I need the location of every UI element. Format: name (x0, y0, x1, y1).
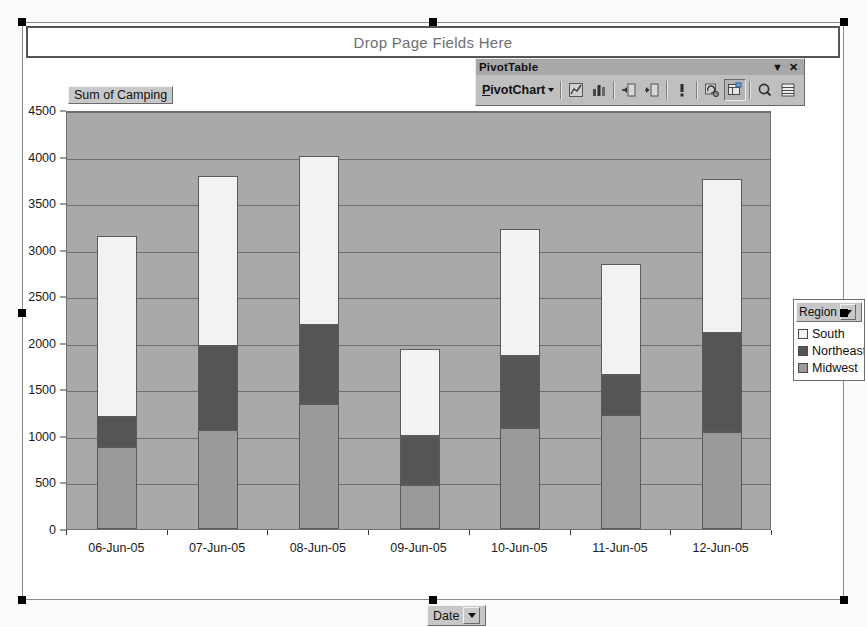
series-field-label: Sum of Camping (74, 88, 167, 102)
legend-swatch (798, 346, 808, 356)
y-axis-tick-label: 2500 (28, 290, 56, 304)
bar-segment[interactable] (702, 333, 742, 433)
field-list-icon[interactable] (754, 79, 776, 101)
category-axis: 06-Jun-0507-Jun-0508-Jun-0509-Jun-0510-J… (66, 535, 771, 559)
pivotchart-menu-button[interactable]: PivotChart (479, 81, 557, 99)
legend-field-button[interactable]: Region (796, 302, 862, 322)
legend-entry-label: Midwest (812, 361, 858, 375)
pivotchart-menu-label-rest: ivotChart (490, 83, 545, 97)
bar-segment[interactable] (601, 264, 641, 376)
toolbar-buttons-row: PivotChart (476, 75, 804, 104)
series-field-button[interactable]: Sum of Camping (68, 86, 173, 104)
page-fields-dropzone-label: Drop Page Fields Here (354, 34, 513, 51)
legend-entry-label: Northeast (812, 344, 864, 358)
chevron-down-icon[interactable] (548, 88, 554, 92)
bar-segment[interactable] (299, 404, 339, 529)
y-axis-tick-label: 3000 (28, 244, 56, 258)
toolbar-titlebar[interactable]: PivotTable ▼ ✕ (476, 59, 804, 75)
chevron-down-icon[interactable]: ▼ (769, 62, 786, 73)
selection-handle-top-left[interactable] (18, 18, 26, 26)
bar-segment[interactable] (198, 430, 238, 529)
chevron-down-icon[interactable] (463, 607, 480, 624)
category-field-button[interactable]: Date (427, 605, 486, 626)
bar-stack[interactable] (97, 111, 137, 529)
x-axis-tick-mark (167, 530, 168, 535)
selection-handle-middle-right[interactable] (840, 309, 848, 317)
chart-wizard-icon[interactable] (565, 79, 587, 101)
y-axis-tick-label: 0 (49, 523, 56, 537)
x-axis-tick-label: 11-Jun-05 (592, 541, 647, 555)
y-axis-tick-label: 3500 (28, 197, 56, 211)
display-fields-icon[interactable] (777, 79, 799, 101)
bar-segment[interactable] (299, 325, 339, 404)
bar-segment[interactable] (702, 179, 742, 333)
x-axis-tick-mark (670, 530, 671, 535)
toolbar-separator-5 (749, 81, 751, 99)
x-axis-tick-label: 12-Jun-05 (692, 541, 748, 555)
bar-segment[interactable] (400, 485, 440, 529)
bar-stack[interactable] (601, 111, 641, 529)
bar-segment[interactable] (702, 432, 742, 529)
selection-handle-top-center[interactable] (429, 18, 437, 26)
selection-handle-bottom-left[interactable] (18, 596, 26, 604)
bar-segment[interactable] (400, 349, 440, 436)
hide-detail-icon[interactable] (618, 79, 640, 101)
selection-handle-middle-left[interactable] (18, 309, 26, 317)
legend[interactable]: Region SouthNortheastMidwest (793, 299, 865, 381)
x-axis-tick-mark (771, 530, 772, 535)
close-icon[interactable]: ✕ (786, 62, 801, 73)
bar-segment[interactable] (97, 236, 137, 418)
chart-type-icon[interactable] (588, 79, 610, 101)
field-settings-icon[interactable] (671, 79, 693, 101)
toolbar-separator-3 (666, 81, 668, 99)
bar-stack[interactable] (500, 111, 540, 529)
chart-canvas: 050010001500200025003000350040004500 06-… (23, 23, 845, 601)
bar-segment[interactable] (601, 375, 641, 415)
bar-segment[interactable] (500, 356, 540, 429)
bar-segment[interactable] (97, 417, 137, 447)
legend-entries: SouthNortheastMidwest (794, 323, 864, 380)
x-axis-tick-label: 10-Jun-05 (491, 541, 547, 555)
selection-handle-bottom-right[interactable] (840, 596, 848, 604)
toolbar-separator-2 (613, 81, 615, 99)
bar-stack[interactable] (702, 111, 742, 529)
x-axis-tick-label: 07-Jun-05 (189, 541, 245, 555)
y-axis-tick-label: 500 (35, 476, 56, 490)
bar-segment[interactable] (198, 346, 238, 431)
legend-entry: Northeast (798, 342, 864, 359)
pivotchart-menu-label: PivotChart (482, 83, 545, 97)
show-detail-icon[interactable] (641, 79, 663, 101)
bar-segment[interactable] (400, 436, 440, 485)
y-axis-tick-label: 2000 (28, 337, 56, 351)
bar-segment[interactable] (198, 176, 238, 345)
legend-title-label: Region (799, 305, 837, 319)
legend-swatch (798, 363, 808, 373)
x-axis-tick-mark (66, 530, 67, 535)
x-axis-tick-mark (469, 530, 470, 535)
bar-stack[interactable] (198, 111, 238, 529)
toolbar-title: PivotTable (479, 61, 769, 73)
y-axis-tick-label: 4000 (28, 151, 56, 165)
include-hidden-items-icon[interactable] (724, 79, 746, 101)
bar-segment[interactable] (500, 428, 540, 529)
page-fields-dropzone[interactable]: Drop Page Fields Here (26, 26, 840, 58)
bar-stack[interactable] (299, 111, 339, 529)
y-axis-tick-label: 1000 (28, 430, 56, 444)
bar-segment[interactable] (601, 415, 641, 529)
pivottable-toolbar[interactable]: PivotTable ▼ ✕ PivotChart (475, 58, 805, 106)
x-axis-tick-label: 09-Jun-05 (390, 541, 446, 555)
selection-handle-top-right[interactable] (840, 18, 848, 26)
x-axis-tick-label: 06-Jun-05 (88, 541, 144, 555)
pivotchart-object[interactable]: 050010001500200025003000350040004500 06-… (22, 22, 844, 600)
category-field-label: Date (433, 609, 459, 623)
toolbar-separator-4 (696, 81, 698, 99)
bar-segment[interactable] (500, 229, 540, 356)
bar-segment[interactable] (299, 156, 339, 325)
value-axis: 050010001500200025003000350040004500 (23, 111, 66, 531)
bar-stack[interactable] (400, 111, 440, 529)
legend-swatch (798, 329, 808, 339)
plot-area[interactable] (66, 111, 771, 530)
selection-handle-bottom-center[interactable] (429, 596, 437, 604)
refresh-data-icon[interactable] (701, 79, 723, 101)
bar-segment[interactable] (97, 447, 137, 529)
